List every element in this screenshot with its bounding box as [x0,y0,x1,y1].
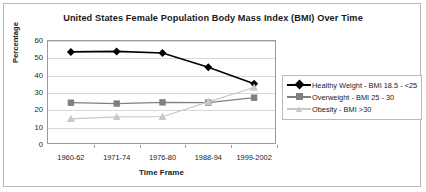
data-point-marker [159,49,167,57]
data-point-marker [251,94,257,100]
legend-item[interactable]: Overweight - BMI 25 - 30 [286,91,419,103]
series-1 [67,47,258,87]
y-axis-tick-label: 10 [17,124,43,132]
y-axis-tick-label: 60 [17,37,43,45]
legend-item[interactable]: Healthy Weight - BMI 18.5 - <25 [286,79,419,91]
x-axis-tick-mark [140,145,141,148]
legend-label: Overweight - BMI 25 - 30 [312,93,394,102]
y-axis-tick-label: 40 [17,72,43,80]
plot-area: 0102030405060 1960-621971-741976-801988-… [47,40,276,144]
data-point-marker [159,99,165,105]
x-axis-title: Time Frame [47,168,276,177]
legend: Healthy Weight - BMI 18.5 - <25Overweigh… [282,75,422,120]
legend-key-marker [296,93,303,100]
data-point-marker [113,47,121,55]
y-axis-tick-label: 30 [17,89,43,97]
data-point-marker [114,100,120,106]
legend-label: Obesity - BMI >30 [312,105,371,114]
series-layer [48,41,277,145]
y-axis-tick-label: 50 [17,54,43,62]
legend-key-marker [295,80,305,90]
legend-key-square-icon [286,91,312,103]
data-point-marker [67,48,75,56]
legend-key-marker [296,106,302,112]
x-axis-tick-mark [231,145,232,148]
x-axis-tick-mark [277,145,278,148]
series-2 [68,94,258,106]
x-axis-tick-mark [94,145,95,148]
x-axis-tick-label: 1999-2002 [219,153,289,162]
legend-item[interactable]: Obesity - BMI >30 [286,103,419,115]
chart-title: United States Female Population Body Mas… [4,13,422,23]
legend-label: Healthy Weight - BMI 18.5 - <25 [312,81,417,90]
legend-key-triangle-icon [286,103,312,115]
data-point-marker [68,100,74,106]
x-axis-tick-mark [185,145,186,148]
data-point-marker [204,63,212,71]
y-axis-tick-label: 0 [17,141,43,149]
y-axis-tick-label: 20 [17,106,43,114]
legend-key-diamond-icon [286,79,312,91]
chart-container: United States Female Population Body Mas… [3,3,421,187]
